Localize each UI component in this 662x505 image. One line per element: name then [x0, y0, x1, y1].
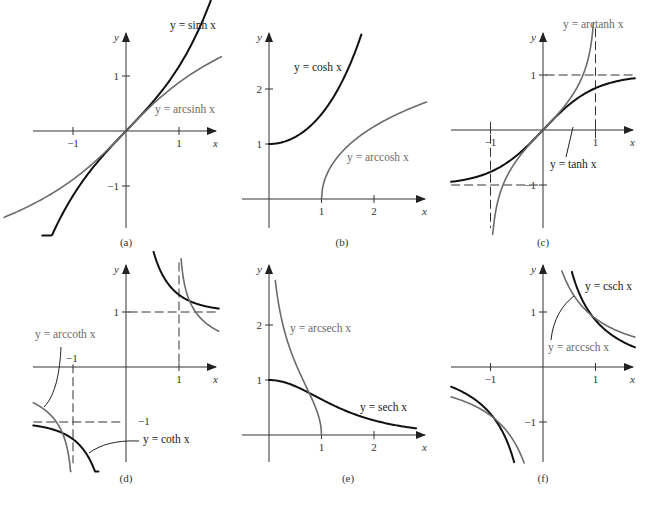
y-axis-label: y [530, 263, 536, 275]
panel-f: xy−111−1y = csch xy = arccsch x(f) [451, 263, 635, 485]
curve-coth_pos [154, 252, 219, 309]
y-tick-label: 1 [531, 69, 537, 81]
x-axis-label: x [212, 137, 218, 149]
y-tick-label: 2 [257, 319, 263, 331]
y-axis-label: y [113, 31, 119, 43]
y-axis-label: y [530, 31, 536, 43]
curve-label: y = arcsech x [290, 322, 351, 335]
panel-caption: (a) [120, 236, 133, 249]
hyperbolic-functions-figure: xy−111−1y = sinh xy = arcsinh x(a)xy1212… [0, 0, 662, 505]
curve-arccoth_pos [181, 259, 219, 331]
leader-line [566, 127, 573, 157]
leader-line [89, 441, 139, 453]
curve-label: y = csch x [585, 280, 632, 293]
panel-caption: (f) [538, 472, 549, 485]
x-axis-label: x [421, 441, 427, 453]
curve-label: y = arccsch x [548, 341, 609, 354]
x-tick-label: 1 [319, 205, 325, 217]
y-tick-label: 1 [257, 138, 263, 150]
y-tick-label: 1 [114, 70, 120, 82]
y-tick-label: −1 [524, 416, 536, 428]
y-axis-label: y [256, 31, 262, 43]
asymptote-label: −1 [66, 352, 78, 364]
curve-coth_neg [33, 425, 98, 471]
curve-label: y = cosh x [294, 61, 342, 74]
x-tick-label: 1 [176, 137, 182, 149]
x-axis-label: x [421, 205, 427, 217]
curve-arcsech [275, 280, 321, 435]
y-axis-label: y [113, 263, 119, 275]
x-tick-label: −1 [485, 373, 497, 385]
x-axis-label: x [212, 373, 218, 385]
y-tick-label: 1 [114, 306, 120, 318]
y-tick-label: 1 [257, 374, 263, 386]
panel-b: xy1212y = cosh xy = arccosh x(b) [242, 31, 427, 249]
x-tick-label: 2 [371, 441, 377, 453]
asymptote-label: −1 [138, 415, 150, 427]
curve-label: y = sinh x [170, 19, 216, 32]
leader-line [551, 296, 574, 340]
curve-cosh [269, 34, 361, 144]
curve-arccsch_neg [451, 397, 524, 463]
x-tick-label: −1 [67, 137, 79, 149]
x-tick-label: 2 [371, 205, 377, 217]
panel-c: xy−111−1y = arctanh xy = tanh x(c) [451, 18, 635, 249]
panel-caption: (b) [336, 236, 349, 249]
x-tick-label: 1 [319, 441, 325, 453]
x-tick-label: 1 [176, 373, 182, 385]
panel-caption: (c) [537, 236, 550, 249]
curve-csch_neg [451, 387, 514, 462]
y-tick-label: 2 [257, 83, 263, 95]
curve-label: y = arcsinh x [155, 103, 215, 116]
panel-a: xy−111−1y = sinh xy = arcsinh x(a) [4, 0, 221, 249]
panel-caption: (e) [342, 472, 355, 485]
y-tick-label: 1 [531, 306, 537, 318]
y-axis-label: y [256, 263, 262, 275]
curve-label: y = arccoth x [35, 328, 96, 341]
curve-label: y = coth x [143, 433, 190, 446]
x-axis-label: x [629, 373, 635, 385]
curve-label: y = tanh x [550, 158, 597, 171]
curve-label: y = arccosh x [347, 151, 409, 164]
x-axis-label: x [629, 136, 635, 148]
panels-container: xy−111−1y = sinh xy = arcsinh x(a)xy1212… [4, 0, 635, 485]
panel-caption: (d) [120, 472, 133, 485]
curve-arccoth_neg [33, 403, 71, 472]
x-tick-label: 1 [593, 373, 599, 385]
panel-e: xy1212y = arcsech xy = sech x(e) [242, 263, 427, 485]
curve-label: y = arctanh x [563, 18, 624, 31]
curve-sinh [42, 0, 211, 235]
panel-d: xy11−1−1y = arccoth xy = coth x(d) [33, 252, 219, 485]
curve-label: y = sech x [360, 401, 407, 414]
y-tick-label: −1 [107, 180, 119, 192]
leader-line [44, 347, 61, 407]
